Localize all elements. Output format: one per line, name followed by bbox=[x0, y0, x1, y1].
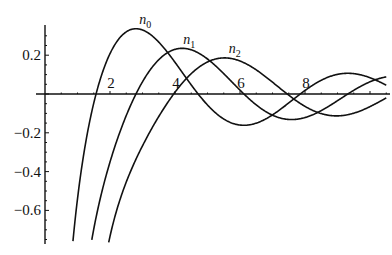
curve-label-n0: n0 bbox=[139, 12, 151, 30]
curve-n2 bbox=[109, 58, 387, 243]
y-tick-label: −0.6 bbox=[14, 202, 42, 218]
labels: n0n1n2 bbox=[139, 12, 240, 59]
y-tick-label: 0.2 bbox=[22, 47, 41, 63]
chart-container: 24680.2−0.2−0.4−0.6 n0n1n2 bbox=[0, 0, 392, 255]
y-tick-label: −0.2 bbox=[14, 125, 41, 141]
curves bbox=[73, 29, 386, 243]
curve-label-n1: n1 bbox=[183, 32, 195, 50]
axes: 24680.2−0.2−0.4−0.6 bbox=[14, 25, 390, 244]
curve-n0 bbox=[73, 29, 386, 241]
y-tick-label: −0.4 bbox=[14, 164, 42, 180]
line-chart: 24680.2−0.2−0.4−0.6 n0n1n2 bbox=[0, 0, 392, 255]
x-tick-label: 2 bbox=[107, 75, 115, 91]
curve-label-n2: n2 bbox=[229, 41, 241, 59]
x-tick-label: 4 bbox=[172, 75, 180, 91]
